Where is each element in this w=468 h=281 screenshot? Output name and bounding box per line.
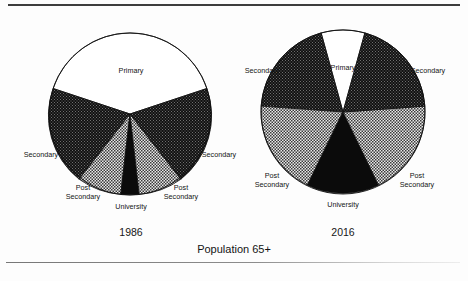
pie-1986-label-secondary-left: Secondary bbox=[24, 150, 59, 159]
pie-1986-label-post-secondary-left-line1: Post bbox=[76, 183, 90, 192]
pie-2016-label-university: University bbox=[327, 200, 359, 209]
pie-1986-label-university: University bbox=[115, 202, 147, 211]
pie-2016-label-secondary-right: Secondary bbox=[411, 66, 446, 75]
pie-1986-label-post-secondary-left-line2: Secondary bbox=[66, 192, 101, 201]
pie-2016-year-label: 2016 bbox=[331, 226, 355, 238]
pie-2016-label-post-secondary-right-line2: Secondary bbox=[400, 180, 435, 189]
pie-charts-svg: Primary Secondary Secondary Post Seconda… bbox=[0, 0, 468, 281]
pie-1986-year-label: 1986 bbox=[119, 226, 143, 238]
pie-chart-2016: Primary Secondary Secondary Post Seconda… bbox=[245, 30, 446, 238]
pie-2016-label-post-secondary-left-line2: Secondary bbox=[255, 180, 290, 189]
pie-2016-label-secondary-left: Secondary bbox=[245, 66, 280, 75]
pie-1986-label-post-secondary-right-line1: Post bbox=[174, 183, 188, 192]
pie-1986-label-primary: Primary bbox=[119, 66, 144, 75]
pie-2016-label-post-secondary-left-line1: Post bbox=[265, 171, 279, 180]
pie-1986-label-secondary-right: Secondary bbox=[202, 150, 237, 159]
figure-container: Primary Secondary Secondary Post Seconda… bbox=[0, 0, 468, 281]
pie-chart-1986: Primary Secondary Secondary Post Seconda… bbox=[24, 33, 237, 238]
pie-2016-label-primary: Primary bbox=[331, 63, 356, 72]
pie-1986-label-post-secondary-right-line2: Secondary bbox=[164, 192, 199, 201]
figure-caption: Population 65+ bbox=[197, 243, 271, 255]
pie-2016-label-post-secondary-right-line1: Post bbox=[410, 171, 424, 180]
